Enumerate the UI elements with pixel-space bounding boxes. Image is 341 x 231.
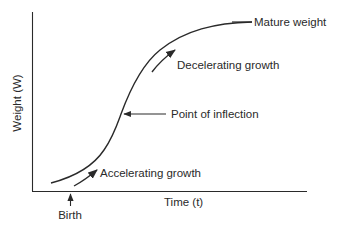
accelerating-growth-label: Accelerating growth — [100, 167, 201, 179]
birth-label: Birth — [58, 209, 82, 221]
point-of-inflection-label: Point of inflection — [171, 108, 259, 120]
decelerating-growth-label: Decelerating growth — [177, 59, 279, 71]
growth-curve — [51, 22, 252, 183]
mature-weight-label: Mature weight — [254, 16, 327, 28]
x-axis-label: Time (t) — [164, 196, 203, 208]
growth-curve-diagram: Weight (W) Time (t) Mature weight Decele… — [0, 0, 341, 231]
y-axis-label: Weight (W) — [11, 74, 23, 131]
